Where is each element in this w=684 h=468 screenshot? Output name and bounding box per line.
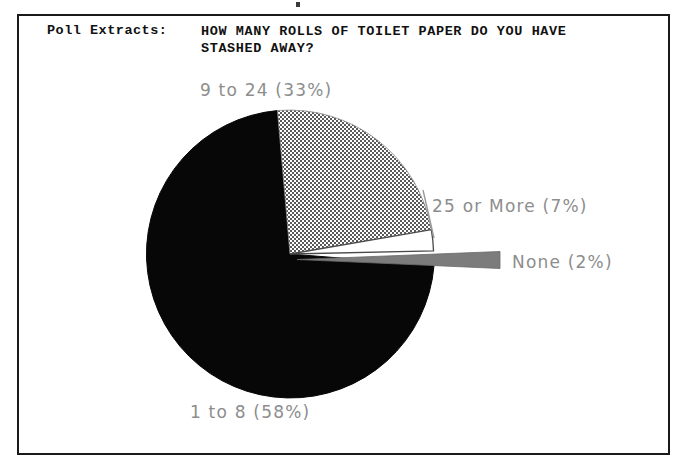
pie-label-9-to-24: 9 to 24 (33%) — [200, 80, 332, 100]
pie-label-none: None (2%) — [512, 252, 613, 272]
pie-chart: 9 to 24 (33%) 25 or More (7%) None (2%) … — [0, 0, 684, 468]
pie-chart-svg — [0, 0, 684, 468]
poll-extracts-page: Poll Extracts: HOW MANY ROLLS OF TOILET … — [0, 0, 684, 468]
pie-label-1-to-8: 1 to 8 (58%) — [190, 402, 310, 422]
pie-slice-9-to-24 — [277, 110, 431, 254]
pie-label-25-or-more: 25 or More (7%) — [432, 196, 588, 216]
